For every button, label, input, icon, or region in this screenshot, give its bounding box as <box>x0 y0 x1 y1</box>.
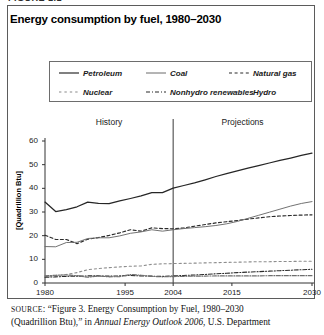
line-style-dashdot-icon <box>146 88 166 96</box>
line-style-dashdotdot-icon <box>229 88 249 96</box>
legend-item-natural-gas[interactable]: Natural gas <box>229 63 297 83</box>
legend-label-petroleum: Petroleum <box>83 69 122 78</box>
source-label: SOURCE <box>11 305 43 314</box>
line-style-solid-icon <box>59 69 79 77</box>
figure-number-label: FIGURE 1.1 <box>8 0 62 2</box>
legend-label-natural-gas: Natural gas <box>253 69 297 78</box>
legend-label-nuclear: Nuclear <box>83 88 112 97</box>
legend-item-coal[interactable]: Coal <box>146 63 187 83</box>
line-style-solid-icon <box>146 69 166 77</box>
legend-item-nuclear[interactable]: Nuclear <box>59 82 112 102</box>
source-note: SOURCE: “Figure 3. Energy Consumption by… <box>11 303 316 330</box>
line-style-dashed-icon <box>229 69 249 77</box>
legend-row-2: Nuclear Nonhydro renewables Hydro <box>50 82 311 102</box>
legend-label-coal: Coal <box>170 69 187 78</box>
source-line2-post: , U.S. Department <box>203 317 270 327</box>
source-line1: : “Figure 3. Energy Consumption by Fuel,… <box>43 304 244 314</box>
legend-label-hydro: Hydro <box>253 88 276 97</box>
source-publication-title: Annual Energy Outlook 2006 <box>94 317 203 327</box>
legend-item-petroleum[interactable]: Petroleum <box>59 63 122 83</box>
figure-page: FIGURE 1.1 Energy consumption by fuel, 1… <box>0 0 324 335</box>
legend-row-1: Petroleum Coal Natural gas <box>50 63 311 83</box>
chart-legend: Petroleum Coal Natural gas Nuclear <box>49 61 312 102</box>
chart-title: Energy consumption by fuel, 1980–2030 <box>10 13 221 25</box>
source-line2-pre: (Quadrillion Btu),” in <box>11 317 94 327</box>
line-style-dotted-icon <box>59 88 79 96</box>
figure-border <box>7 5 315 299</box>
legend-item-hydro[interactable]: Hydro <box>229 82 276 102</box>
